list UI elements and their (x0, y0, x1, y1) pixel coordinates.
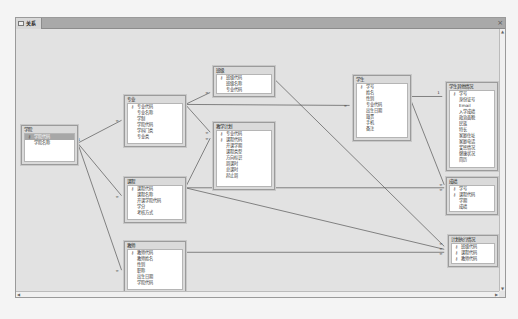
table-xueshengqita[interactable]: 学生其他情况 ⚷学号 身份证号 Email 入学成绩 政治面貌 民族 特长 家庭… (446, 82, 498, 171)
field-list[interactable]: ⚷学号 身份证号 Email 入学成绩 政治面貌 民族 特长 家庭住址 家庭电话… (449, 90, 495, 168)
table-title: 学生 (354, 76, 410, 83)
rel-xuesheng-chengji (409, 96, 444, 184)
svg-text:∞: ∞ (205, 136, 208, 141)
svg-text:∞: ∞ (205, 130, 208, 135)
field-row[interactable]: 专业代码 (217, 87, 271, 93)
table-title: 计划执行情况 (449, 236, 497, 243)
scroll-down-arrow-icon[interactable]: ▼ (500, 286, 505, 291)
field-list[interactable]: ⚷专业代码 ⚷课程代码 开课学期 课程类型 方向标识 周课时 总课时 起止周 (216, 130, 272, 187)
primary-key-icon: ⚷ (455, 256, 458, 262)
svg-text:1: 1 (78, 137, 81, 142)
table-jiaoshi[interactable]: 教师 ⚷教师代码 教师姓名 性别 职称 出生日期 学院代码 (124, 241, 186, 291)
field-row[interactable]: 备注 (357, 126, 407, 132)
table-xueyuan[interactable]: 学院 ⚷学院代码 学院名称 (21, 125, 78, 165)
field-row[interactable]: 考核方式 (128, 210, 182, 216)
horizontal-scrollbar[interactable]: ◀ ▶ (16, 291, 499, 297)
table-jiaoxuejihua[interactable]: 教学计划 ⚷专业代码 ⚷课程代码 开课学期 课程类型 方向标识 周课时 总课时 … (213, 122, 275, 190)
field-list[interactable]: ⚷班级代码 ⚷课程代码 ⚷教师代码 (451, 243, 495, 264)
table-title: 成绩 (447, 178, 497, 185)
document-tab-bar: 关系 × (16, 18, 505, 29)
svg-text:∞: ∞ (439, 187, 442, 192)
rel-zhuanye-jiaoxuejihua (185, 104, 210, 132)
table-title: 教师 (125, 242, 185, 249)
table-title: 课程 (125, 178, 185, 185)
table-xuesheng[interactable]: 学生 ⚷学号 姓名 性别 专业代码 出生日期 籍贯 手机 备注 (353, 75, 411, 141)
scroll-left-arrow-icon[interactable]: ◀ (16, 292, 21, 297)
table-jihuazhixing[interactable]: 计划执行情况 ⚷班级代码 ⚷课程代码 ⚷教师代码 (448, 235, 498, 267)
field-row[interactable]: 学院代码 (128, 280, 182, 286)
field-list[interactable]: ⚷教师代码 教师姓名 性别 职称 出生日期 学院代码 (127, 249, 183, 290)
field-row[interactable]: 成绩 (450, 204, 494, 210)
rel-zhuanye-xuesheng (185, 104, 349, 105)
field-row[interactable]: 起止周 (217, 173, 271, 179)
table-chengji[interactable]: 成绩 ⚷学号 ⚷课程代码 学期 成绩 (446, 177, 498, 215)
svg-text:∞: ∞ (344, 103, 347, 108)
field-list[interactable]: ⚷班级代码 班级名称 专业代码 (216, 74, 272, 94)
svg-text:∞: ∞ (205, 91, 208, 96)
rel-kecheng-jiaoxuejihua (185, 138, 210, 188)
field-list[interactable]: ⚷学号 ⚷课程代码 学期 成绩 (449, 185, 495, 212)
scroll-right-arrow-icon[interactable]: ▶ (494, 292, 499, 297)
table-title: 教学计划 (214, 123, 274, 130)
field-row[interactable]: 学院名称 (25, 140, 74, 146)
svg-text:1: 1 (437, 91, 440, 96)
table-banji[interactable]: 班级 ⚷班级代码 班级名称 专业代码 (213, 66, 275, 97)
table-title: 学院 (22, 126, 77, 133)
close-button[interactable]: × (497, 19, 503, 28)
field-list[interactable]: ⚷学号 姓名 性别 专业代码 出生日期 籍贯 手机 备注 (356, 83, 408, 138)
table-title: 学生其他情况 (447, 83, 497, 90)
tab-label: 关系 (26, 21, 36, 26)
relationship-canvas[interactable]: 1 1 1 1 1 1 1 ∞ ∞ ∞ ∞ ∞ ∞ ∞ ∞ ∞ ∞ ∞ ∞ (16, 29, 499, 291)
svg-text:∞: ∞ (116, 118, 119, 123)
svg-text:∞: ∞ (439, 251, 442, 256)
rel-xueyuan-jiaoshi (78, 143, 122, 270)
table-title: 专业 (125, 96, 185, 103)
svg-text:∞: ∞ (116, 194, 119, 199)
tab-relationships[interactable]: 关系 (16, 18, 42, 29)
relationships-window: 关系 × (15, 17, 506, 298)
vertical-scrollbar[interactable]: ▲ ▼ (499, 29, 505, 291)
svg-text:∞: ∞ (116, 268, 119, 273)
field-list[interactable]: ⚷课程代码 课程名称 开课学院代码 学分 考核方式 (127, 185, 183, 220)
relationships-icon (18, 21, 24, 26)
scroll-up-arrow-icon[interactable]: ▲ (500, 29, 505, 34)
table-kecheng[interactable]: 课程 ⚷课程代码 课程名称 开课学院代码 学分 考核方式 (124, 177, 186, 223)
rel-kecheng-jihua (185, 188, 444, 250)
rel-xueyuan-zhuanye (78, 120, 122, 143)
field-row[interactable]: 专业类 (128, 134, 182, 140)
field-list[interactable]: ⚷专业代码 专业名称 学制 学院代码 学科门类 专业类 (127, 103, 183, 144)
field-row[interactable]: 简历 (450, 157, 494, 163)
rel-xueyuan-kecheng (78, 143, 122, 196)
table-zhuanye[interactable]: 专业 ⚷专业代码 专业名称 学制 学院代码 学科门类 专业类 (124, 95, 186, 147)
field-row[interactable]: ⚷教师代码 (452, 256, 494, 262)
field-list[interactable]: ⚷学院代码 学院名称 (24, 133, 75, 162)
table-title: 班级 (214, 67, 274, 74)
